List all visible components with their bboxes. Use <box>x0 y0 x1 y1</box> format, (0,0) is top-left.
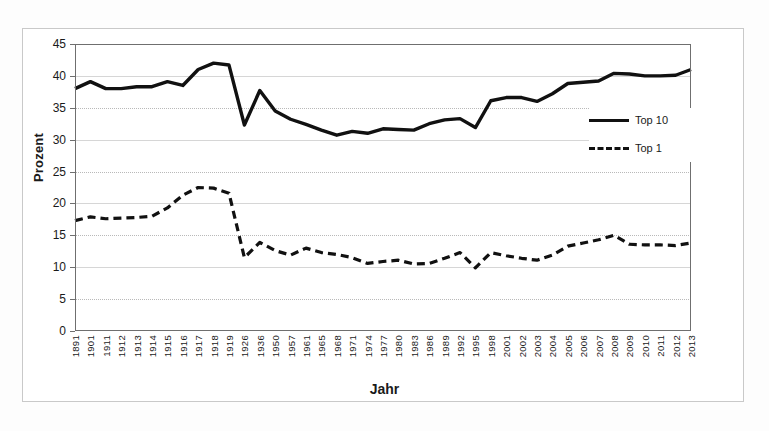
x-tick-label: 2004 <box>547 335 558 357</box>
legend-line-dashed-icon <box>589 147 629 150</box>
x-tick-label: 2008 <box>609 335 620 357</box>
y-tick-label: 10 <box>53 260 66 274</box>
x-tick-label: 2001 <box>501 335 512 357</box>
x-tick-label: 1998 <box>486 335 497 357</box>
legend-item-top10: Top 10 <box>589 110 691 130</box>
x-tick-label: 1912 <box>116 335 127 357</box>
series-layer <box>75 44 691 331</box>
y-tick-label: 35 <box>53 101 66 115</box>
x-tick-label: 1950 <box>270 335 281 357</box>
x-tick-label: 2002 <box>517 335 528 357</box>
x-tick-label: 1980 <box>393 335 404 357</box>
x-tick-label: 1916 <box>178 335 189 357</box>
x-tick-label: 1974 <box>363 335 374 357</box>
x-tick-label: 1968 <box>332 335 343 357</box>
x-tick-label: 1891 <box>70 335 81 357</box>
x-tick-label: 1992 <box>455 335 466 357</box>
x-tick-label: 1995 <box>470 335 481 357</box>
y-tick-label: 45 <box>53 37 66 51</box>
chart-figure: Prozent Jahr 051015202530354045 18911901… <box>0 0 769 431</box>
x-tick-label: 1936 <box>255 335 266 357</box>
x-tick-label: 2007 <box>594 335 605 357</box>
legend-label: Top 10 <box>635 114 668 126</box>
x-tick-label: 1915 <box>162 335 173 357</box>
x-tick-label: 1926 <box>239 335 250 357</box>
legend-line-solid-icon <box>589 119 629 122</box>
x-tick-label: 1918 <box>209 335 220 357</box>
x-tick-label: 1917 <box>193 335 204 357</box>
x-tick-label: 2009 <box>624 335 635 357</box>
x-tick-label: 1986 <box>424 335 435 357</box>
x-tick-label: 2010 <box>640 335 651 357</box>
x-tick-label: 1914 <box>147 335 158 357</box>
legend-item-top1: Top 1 <box>589 138 691 158</box>
x-axis-ticks: 1891190119111912191319141915191619171918… <box>75 331 691 427</box>
x-tick-label: 1911 <box>101 335 112 357</box>
y-tick-label: 40 <box>53 69 66 83</box>
y-axis-ticks: 051015202530354045 <box>0 44 75 331</box>
x-tick-label: 2012 <box>671 335 682 357</box>
x-tick-label: 2011 <box>655 335 666 357</box>
series-line-top-1 <box>75 188 691 268</box>
x-tick-label: 1989 <box>440 335 451 357</box>
x-tick-label: 1913 <box>132 335 143 357</box>
chart-legend: Top 10 Top 1 <box>589 108 691 162</box>
x-tick-label: 1965 <box>316 335 327 357</box>
x-tick-label: 1961 <box>301 335 312 357</box>
x-tick-label: 1977 <box>378 335 389 357</box>
x-tick-label: 1983 <box>409 335 420 357</box>
x-tick-label: 2005 <box>563 335 574 357</box>
legend-label: Top 1 <box>635 142 662 154</box>
x-tick-label: 2006 <box>578 335 589 357</box>
y-tick-label: 5 <box>59 292 66 306</box>
x-tick-label: 1957 <box>286 335 297 357</box>
y-tick-label: 15 <box>53 228 66 242</box>
x-tick-label: 2003 <box>532 335 543 357</box>
x-tick-label: 2013 <box>686 335 697 357</box>
y-tick-label: 20 <box>53 196 66 210</box>
x-tick-label: 1919 <box>224 335 235 357</box>
x-tick-label: 1971 <box>347 335 358 357</box>
y-tick-label: 0 <box>59 324 66 338</box>
x-tick-label: 1901 <box>85 335 96 357</box>
y-tick-label: 25 <box>53 165 66 179</box>
plot-area <box>75 44 691 331</box>
y-tick-label: 30 <box>53 133 66 147</box>
